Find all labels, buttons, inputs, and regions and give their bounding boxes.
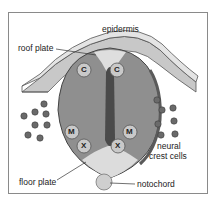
marker-c-left: C (81, 66, 87, 74)
label-floor-plate: floor plate (19, 178, 56, 187)
notochord-shape (96, 174, 112, 190)
label-notochord: notochord (137, 180, 175, 189)
marker-m-left: M (68, 128, 75, 136)
neural-tube (58, 48, 160, 178)
label-roof-plate: roof plate (18, 44, 53, 53)
label-epidermis: epidermis (102, 25, 139, 34)
marker-c-right: C (114, 66, 120, 74)
marker-x-left: X (81, 142, 86, 150)
marker-x-right: X (115, 142, 120, 150)
label-neural-crest-1: neural (157, 142, 181, 151)
label-neural-crest-2: crest cells (149, 152, 187, 161)
neural-crest-cells-left (21, 101, 50, 141)
marker-m-right: M (126, 128, 133, 136)
